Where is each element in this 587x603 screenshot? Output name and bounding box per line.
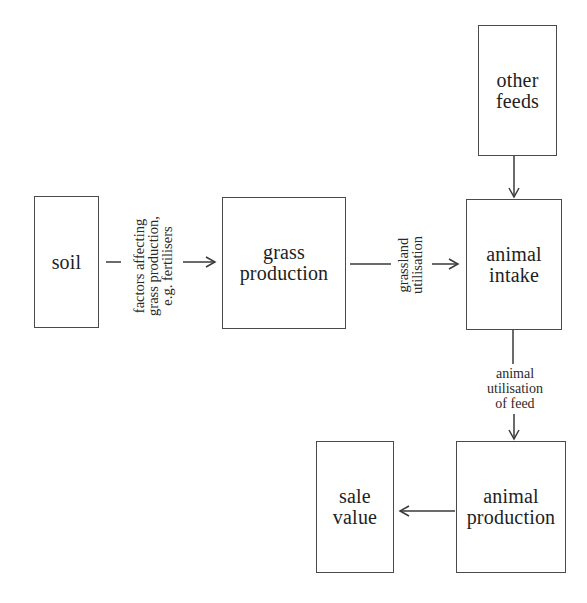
node-grass-production-label: grass production [240, 242, 329, 284]
edge-label-grass-to-intake: grassland utilisation [396, 234, 426, 296]
node-sale-value-label: sale value [333, 486, 377, 528]
node-animal-production: animal production [456, 441, 566, 573]
node-animal-production-label: animal production [467, 486, 556, 528]
node-other-feeds: other feeds [478, 25, 557, 156]
node-animal-intake-label: animal intake [486, 244, 542, 286]
node-sale-value: sale value [316, 441, 394, 573]
edge-label-intake-to-production: animal utilisation of feed [460, 366, 570, 411]
node-soil: soil [34, 196, 99, 328]
node-animal-intake: animal intake [466, 199, 562, 330]
node-other-feeds-label: other feeds [496, 70, 539, 112]
node-grass-production: grass production [222, 197, 346, 329]
node-soil-label: soil [52, 252, 82, 273]
edge-label-soil-to-grass: factors affecting grass production, e.g.… [132, 209, 176, 323]
